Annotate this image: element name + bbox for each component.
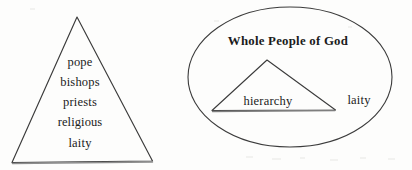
- pyramid-label-laity: laity: [68, 137, 91, 150]
- pyramid-label-pope: pope: [67, 56, 92, 69]
- pyramid-label-priests: priests: [63, 96, 97, 109]
- inner-label-laity: laity: [347, 94, 370, 107]
- diagram-canvas: pope bishops priests religious laity Who…: [0, 0, 412, 170]
- pyramid-label-religious: religious: [58, 116, 103, 129]
- inner-label-hierarchy: hierarchy: [244, 95, 293, 108]
- ellipse-title-whole-people-of-god: Whole People of God: [228, 35, 348, 48]
- ellipse-outline-group: [188, 7, 392, 147]
- pyramid-label-bishops: bishops: [60, 76, 100, 89]
